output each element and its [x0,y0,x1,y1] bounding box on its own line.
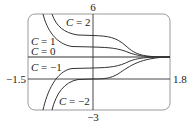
label-c2: C = 2 [66,16,91,28]
solution-curves-chart: 6 −3 −1.5 1.8 C = 2 C = 1 C = 0 C = −1 C… [0,0,188,122]
x-min-label: −1.5 [6,73,26,85]
label-cm1: C = −1 [31,61,62,73]
x-max-label: 1.8 [173,73,187,85]
label-c0: C = 0 [31,45,56,57]
curve-c1 [43,14,170,57]
label-cm2: C = −2 [59,95,90,107]
y-max-label: 6 [90,1,96,13]
y-min-label: −3 [87,111,99,122]
